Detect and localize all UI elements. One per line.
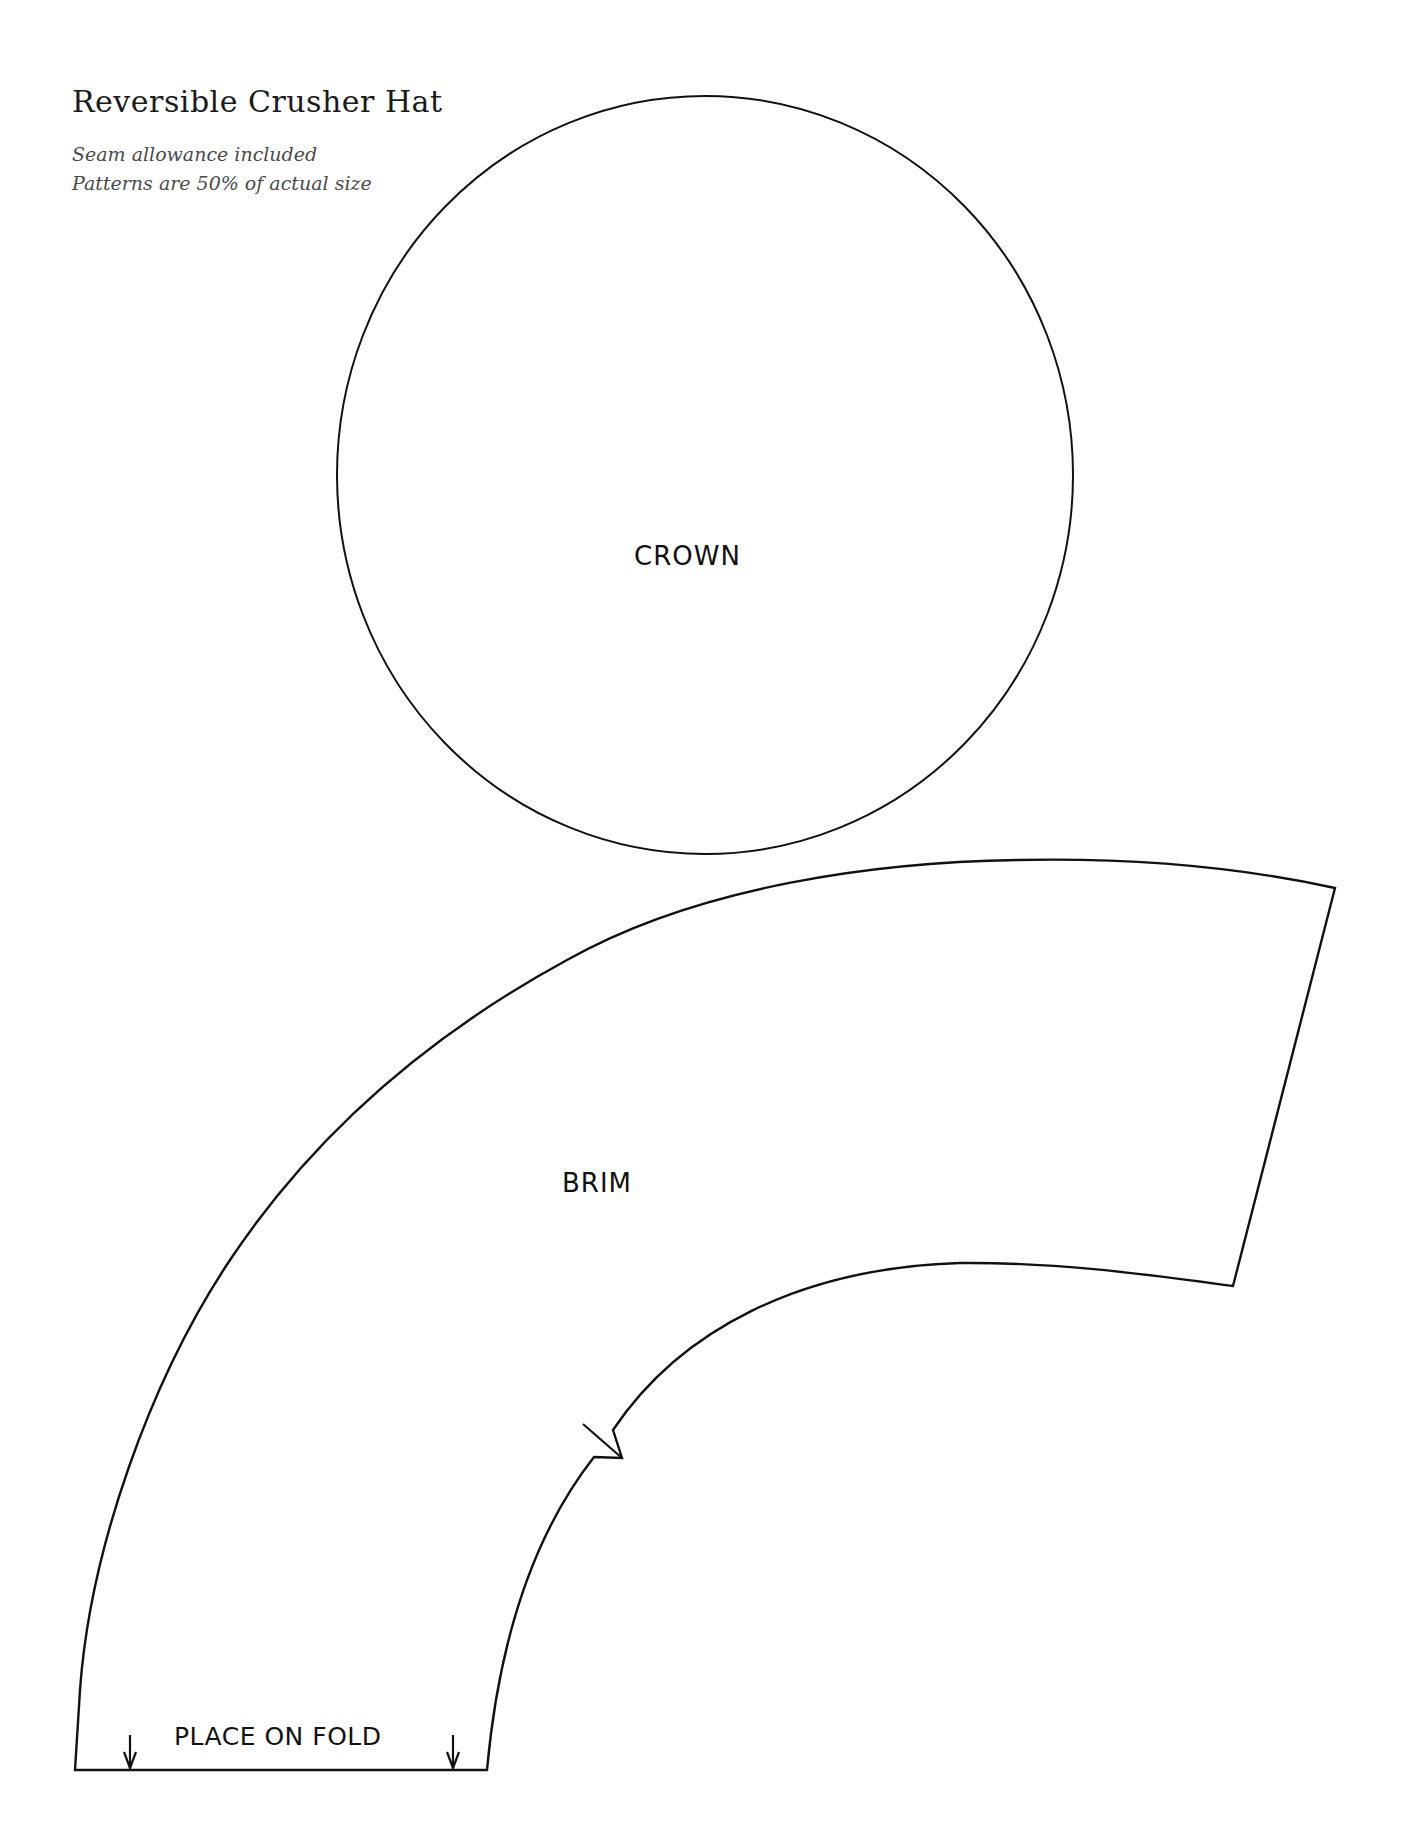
- crown-piece-outline: [337, 96, 1073, 854]
- fold-arrow-right-icon: [447, 1735, 459, 1770]
- fold-arrow-left-icon: [124, 1735, 136, 1770]
- brim-label: BRIM: [562, 1168, 632, 1198]
- pattern-drawing: [0, 0, 1406, 1822]
- place-on-fold-label: PLACE ON FOLD: [174, 1722, 382, 1751]
- brim-piece-outline: [75, 860, 1335, 1770]
- crown-label: CROWN: [634, 541, 741, 571]
